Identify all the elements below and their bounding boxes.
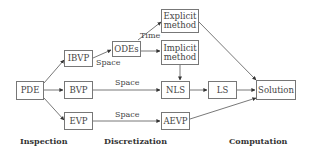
stage-label-discretization: Discretization xyxy=(104,136,167,146)
edge-aevp-solution xyxy=(190,98,256,119)
edge-explicit-solution xyxy=(199,22,256,80)
node-explicit-method: Explicit method xyxy=(161,9,199,33)
edge-pde-ibvp xyxy=(44,60,64,83)
stage-label-inspection: Inspection xyxy=(20,136,68,146)
node-solution: Solution xyxy=(256,80,296,100)
stage-label-computation: Computation xyxy=(229,136,287,146)
edge-ibvp-odes xyxy=(93,50,111,58)
node-ibvp: IBVP xyxy=(64,50,93,67)
edge-label-space-ibvp: Space xyxy=(96,58,121,67)
node-evp: EVP xyxy=(64,112,93,130)
edges-layer xyxy=(0,0,309,154)
node-aevp: AEVP xyxy=(161,112,190,130)
node-bvp: BVP xyxy=(64,81,93,99)
edge-label-time: Time xyxy=(140,31,160,40)
edge-label-space-evp: Space xyxy=(115,110,140,119)
node-implicit-method: Implicit method xyxy=(161,40,199,65)
node-odes: ODEs xyxy=(112,41,141,57)
node-ls: LS xyxy=(208,81,237,99)
edge-label-space-bvp: Space xyxy=(115,78,140,87)
node-nls: NLS xyxy=(161,81,190,99)
edge-pde-evp xyxy=(44,98,64,120)
node-pde: PDE xyxy=(16,81,44,100)
